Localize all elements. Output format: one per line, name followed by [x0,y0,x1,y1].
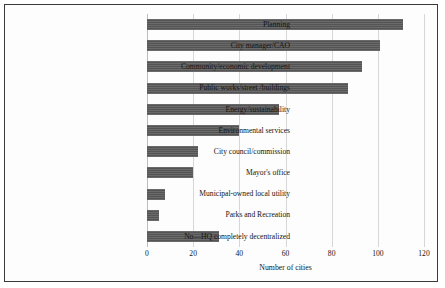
x-axis-title: Number of cities [147,263,424,272]
category-label: Parks and Recreation [225,205,290,226]
category-label: City council/commission [214,141,290,162]
gridline-120 [424,14,425,247]
category-label: No—HQ completely decentralized [184,226,290,247]
category-label: Municipal-owned local utility [199,183,290,204]
category-label: City manager/CAO [231,35,290,56]
bar[interactable] [147,210,159,221]
category-label: Energy/sustainability [226,99,290,120]
category-label: Environmental services [219,120,290,141]
category-label: Planning [263,14,290,35]
x-tick-label: 20 [189,249,197,258]
category-label: Mayor's office [246,162,290,183]
bar[interactable] [147,189,165,200]
category-label: Community/economic development [181,56,290,77]
x-tick-label: 120 [418,249,429,258]
x-tick-label: 40 [236,249,244,258]
x-tick-label: 60 [282,249,290,258]
x-tick-label: 80 [328,249,336,258]
x-axis-tick-labels: 020406080100120 [147,249,424,261]
chart-figure: PlanningCity manager/CAOCommunity/econom… [4,4,438,282]
bar[interactable] [147,167,193,178]
bar-chart: PlanningCity manager/CAOCommunity/econom… [5,5,437,281]
bar[interactable] [147,146,198,157]
x-tick-label: 0 [145,249,149,258]
x-tick-label: 100 [372,249,383,258]
category-label: Public works/street /buildings [199,78,290,99]
